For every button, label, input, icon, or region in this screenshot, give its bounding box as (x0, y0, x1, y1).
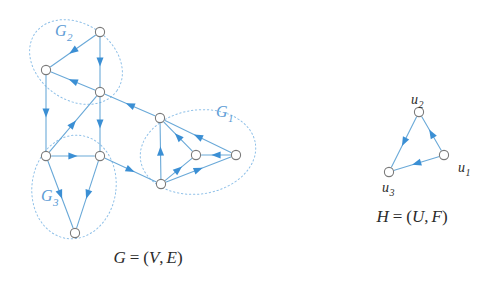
caption-graph-h: H=(U,F) (375, 207, 447, 226)
cluster-outline-g3 (25, 130, 123, 245)
g-arrowhead-v1-to-v2 (67, 45, 79, 56)
g-arrowhead-v5-to-v10 (125, 165, 136, 175)
h-arrowhead-u1-to-u2 (426, 128, 437, 139)
g-node-v3 (95, 87, 104, 96)
caption-graph-g: G=(V,E) (113, 248, 182, 267)
h-node-u3 (384, 167, 393, 176)
cluster-label-g2: G2 (55, 22, 73, 43)
graph-edge-arrowheads (43, 45, 221, 200)
cluster-outline-g2 (13, 2, 139, 122)
g-arrowhead-v3-to-v2 (67, 76, 78, 86)
g-arrowhead-v4-to-v5 (68, 153, 77, 160)
g-node-v6 (70, 228, 79, 237)
g-arrowhead-v7-to-v3 (124, 100, 135, 110)
g-arrowhead-v9-to-v8 (211, 152, 220, 159)
h-arrowhead-u2-to-u3 (399, 136, 409, 147)
cluster-labels: G1G2G3 (41, 22, 234, 208)
g-node-v7 (155, 113, 164, 122)
h-node-label-u2: u2 (411, 92, 423, 110)
g-arrowhead-v10-to-v7 (157, 146, 164, 155)
h-node-u1 (439, 150, 448, 159)
cluster-label-g3: G3 (41, 187, 59, 208)
g-node-v8 (191, 150, 200, 159)
g-arrowhead-v1-to-v3 (97, 57, 104, 66)
g-arrowhead-v5-to-v6 (83, 189, 92, 200)
g-arrowhead-v3-to-v5 (97, 119, 104, 128)
h-graph-edge-arrowheads (399, 128, 437, 168)
graph-nodes (41, 27, 240, 237)
g-node-v5 (95, 151, 104, 160)
g-arrowhead-v10-to-v9 (193, 165, 204, 175)
cluster-outlines (13, 2, 261, 244)
h-graph-node-labels: u1u2u3 (382, 92, 470, 198)
g-node-v10 (156, 179, 165, 188)
h-node-label-u3: u3 (382, 180, 394, 198)
h-arrowhead-u1-to-u3 (411, 159, 422, 168)
g-node-v1 (95, 27, 104, 36)
g-node-v2 (41, 65, 50, 74)
cluster-label-g1: G1 (216, 103, 234, 124)
graph-edges (46, 35, 231, 228)
g-node-v9 (231, 150, 240, 159)
h-node-label-u1: u1 (458, 160, 470, 178)
g-arrowhead-v9-to-v7 (192, 131, 203, 141)
g-arrowhead-v2-to-v4 (43, 108, 50, 117)
g-node-v4 (41, 151, 50, 160)
graph-figure: G1G2G3 u1u2u3 G=(V,E) H=(U,F) (0, 0, 503, 285)
